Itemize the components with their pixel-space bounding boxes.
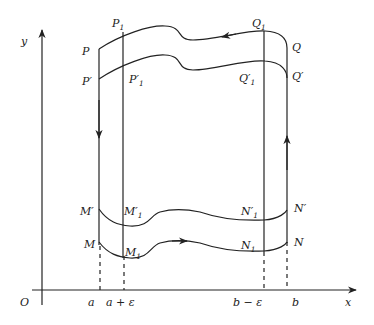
label-N-prime: N′ [293, 202, 307, 215]
label-Q1-prime: Q′1 [239, 72, 255, 87]
label-P: P [81, 45, 90, 58]
label-Q: Q [292, 41, 301, 54]
x-axis-label: x [345, 296, 352, 309]
label-N1-prime: N′1 [240, 205, 258, 220]
label-M-prime: M′ [79, 205, 94, 218]
label-M: M [83, 238, 96, 251]
tick-a-plus-eps: a + ε [106, 296, 135, 309]
diagram-canvas: y x O a a + ε b − ε b P P1 P′ P′1 Q1 Q [0, 0, 374, 325]
tick-b-minus-eps: b − ε [233, 296, 262, 309]
inner-top-curve [99, 55, 287, 79]
tick-b: b [292, 296, 299, 309]
label-M1: M1 [124, 246, 141, 261]
outer-top-arrow [222, 34, 236, 37]
y-axis-label: y [20, 35, 28, 48]
label-P1-prime: P′1 [128, 73, 144, 88]
point-labels: P P1 P′ P′1 Q1 Q Q′1 Q′ M′ M′1 M M1 N′1 … [79, 17, 307, 261]
label-Q-prime: Q′ [292, 70, 304, 83]
origin-label: O [20, 296, 29, 309]
label-N1: N1 [240, 239, 255, 254]
label-M1-prime: M′1 [123, 205, 143, 220]
label-N: N [293, 236, 304, 249]
tick-a: a [88, 296, 95, 309]
label-Q1: Q1 [252, 17, 266, 32]
label-P-prime: P′ [81, 75, 92, 88]
label-P1: P1 [111, 17, 124, 32]
